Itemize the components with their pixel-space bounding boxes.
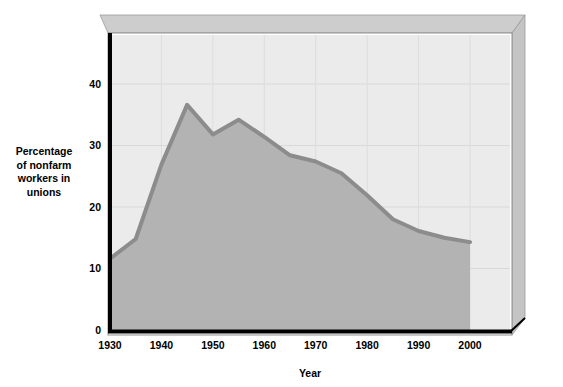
x-tick-label: 1930 (98, 339, 122, 351)
y-axis-title-line: workers in (6, 172, 82, 186)
union-membership-area-chart: 0 10 20 30 40 1930 1940 1950 1960 1970 1… (0, 0, 563, 387)
x-tick-label: 1950 (201, 339, 225, 351)
frame-top-panel (100, 15, 525, 33)
x-tick-label: 2000 (458, 339, 482, 351)
y-tick-labels: 0 10 20 30 40 (89, 78, 101, 337)
y-tick-label: 10 (89, 262, 101, 274)
x-tick-label: 1990 (407, 339, 431, 351)
y-tick-label: 40 (89, 78, 101, 90)
x-tick-labels: 1930 1940 1950 1960 1970 1980 1990 2000 (98, 339, 482, 351)
y-axis-title-line: unions (6, 186, 82, 200)
y-axis-title: Percentage of nonfarm workers in unions (6, 145, 82, 199)
x-tick-label: 1980 (355, 339, 379, 351)
x-tick-label: 1970 (304, 339, 328, 351)
x-tick-label: 1940 (150, 339, 174, 351)
frame-right-panel (512, 15, 525, 335)
chart-canvas: 0 10 20 30 40 1930 1940 1950 1960 1970 1… (0, 0, 563, 387)
x-axis-title: Year (299, 367, 321, 379)
y-tick-label: 30 (89, 139, 101, 151)
y-tick-label: 20 (89, 201, 101, 213)
y-axis-title-line: Percentage (6, 145, 82, 159)
y-axis-title-line: of nonfarm (6, 159, 82, 173)
y-tick-label: 0 (95, 324, 101, 336)
x-tick-label: 1960 (253, 339, 277, 351)
